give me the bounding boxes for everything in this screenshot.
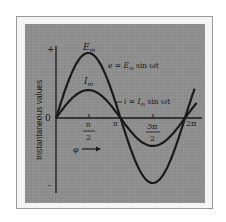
phi-label: φ xyxy=(73,145,79,154)
em-peak-label: Em xyxy=(82,42,96,53)
im-peak-label: Im xyxy=(83,76,94,87)
y-plus-label: + xyxy=(47,44,55,54)
x-label-three-pi-half-num: 3π xyxy=(147,122,157,131)
e-equation-label: e = Em sin ωt xyxy=(108,61,159,71)
x-label-pi-half-den: 2 xyxy=(86,133,91,142)
x-label-pi-half-num: π xyxy=(86,121,91,129)
x-label-three-pi-half-den: 2 xyxy=(150,134,155,143)
x-label-pi: π xyxy=(113,120,118,128)
sine-chart: + 0 - Instantaneous values π 2 π 3π 2 2π… xyxy=(0,0,226,222)
y-axis-title: Instantaneous values xyxy=(34,80,44,160)
y-zero-label: 0 xyxy=(45,113,51,123)
x-label-two-pi: 2π xyxy=(186,119,196,128)
arrow-head-icon xyxy=(96,147,101,152)
i-equation-label: i = Im sin ωt xyxy=(124,97,170,107)
y-minus-label: - xyxy=(48,180,51,190)
